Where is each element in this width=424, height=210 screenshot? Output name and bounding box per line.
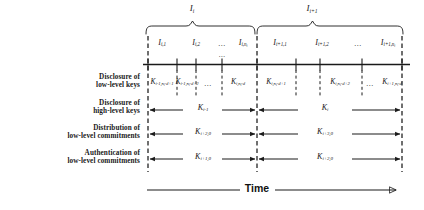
key-ellipsis-0: ...	[204, 80, 212, 88]
sub-interval-label-4: Ii+1,1	[273, 39, 286, 48]
sub-interval-3-sub: i,ni	[241, 41, 247, 47]
arrow-label-distribution-1: Ki+3,0	[317, 128, 333, 137]
brace-interval-i-plus-1	[257, 21, 403, 34]
interval-boundary-dashed-lines	[148, 36, 402, 172]
row-label-disclosure-high-level-keys: Disclosure of high-level keys	[0, 100, 140, 115]
sub-interval-label-3: Ii,ni	[239, 39, 248, 49]
key-label-0: Ki-1,ni-d+1	[150, 78, 173, 87]
key-ellipsis-1: ...	[366, 80, 374, 88]
row-label-line2: low-level commitments	[0, 133, 140, 141]
sub-interval-label-1: Ii,2	[192, 39, 200, 48]
interval-top-1-sub: i+1	[310, 8, 318, 14]
timeline-figure: Ii Ii+1 Ii,1 Ii,2 ... Ii,ni Ii+1,1 Ii+1,…	[0, 0, 424, 210]
arrow-label-distribution-0-sub: i+2,0	[200, 131, 210, 136]
key-label-5: Ki,ni-d+2	[330, 78, 349, 87]
arrow-label-high-level-1-sub: i	[327, 107, 328, 112]
row-label-line2: low-level keys	[0, 82, 140, 90]
sub-interval-ellipsis-0: ...	[218, 40, 226, 48]
sub-interval-0-sub: i,1	[161, 41, 166, 47]
sub-interval-4-sub: i+1,1	[276, 41, 287, 47]
arrow-label-distribution-1-sub: i+3,0	[322, 131, 332, 136]
row-label-disclosure-low-level-keys: Disclosure of low-level keys	[0, 74, 140, 89]
sub-interval-7-sub: i+1,ni	[384, 41, 396, 47]
axis-ellipsis-right: ...	[355, 60, 362, 67]
key-label-3: Ki,ni-d	[231, 78, 245, 87]
axis-ellipsis-left: ...	[219, 52, 226, 59]
row-label-distribution-low-level-commitments: Distribution of low-level commitments	[0, 125, 140, 140]
row-label-line2: low-level commitments	[0, 158, 140, 166]
sub-interval-5-sub: i+1,2	[318, 41, 329, 47]
interval-label-top-1: Ii+1	[307, 4, 318, 14]
interval-top-0-sub: i	[193, 8, 194, 14]
row-label-authentication-low-level-commitments: Authentication of low-level commitments	[0, 150, 140, 165]
arrow-label-authentication-1: Ki+2,0	[317, 153, 333, 162]
key-label-7: Ki+1,ni-d	[382, 78, 401, 87]
sub-interval-ellipsis-1: ...	[354, 40, 362, 48]
arrow-label-high-level-1: Ki	[322, 104, 329, 113]
arrow-label-high-level-0-sub: i-1	[203, 107, 208, 112]
sub-interval-1-sub: i,2	[195, 41, 200, 47]
arrow-label-authentication-0: Ki+1,0	[195, 153, 211, 162]
time-axis-label: Time	[245, 183, 269, 194]
arrow-label-high-level-0: Ki-1	[198, 104, 209, 113]
arrow-label-authentication-0-sub: i+1,0	[200, 156, 210, 161]
brace-interval-i	[146, 21, 255, 34]
key-label-4: Ki,ni-d+1	[266, 78, 285, 87]
sub-interval-label-7: Ii+1,ni	[381, 39, 395, 49]
arrow-label-authentication-1-sub: i+2,0	[322, 156, 332, 161]
sub-interval-label-5: Ii+1,2	[315, 39, 328, 48]
row-label-line2: high-level keys	[0, 108, 140, 116]
interval-label-top-0: Ii	[190, 4, 194, 14]
sub-interval-label-0: Ii,1	[158, 39, 166, 48]
key-label-1: Ki-1,ni-d+2	[175, 78, 198, 87]
arrow-label-distribution-0: Ki+2,0	[195, 128, 211, 137]
